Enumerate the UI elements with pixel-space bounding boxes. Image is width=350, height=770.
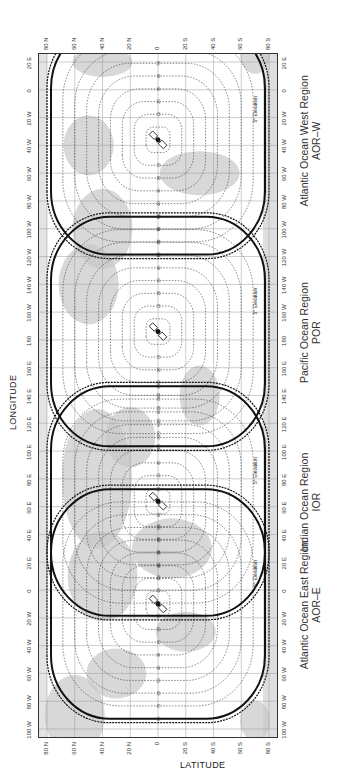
svg-text:30: 30 [156,86,161,91]
longitude-tick-label: 140 W [281,277,287,294]
svg-text:70: 70 [156,431,161,436]
svg-text:20: 20 [156,460,161,465]
latitude-tick-label: 20 S [182,38,188,50]
latitude-tick-label: 0 [154,47,160,50]
longitude-tick-label: 100 E [281,444,287,460]
longitude-tick-label: 40 E [26,529,32,541]
latitude-tick-label: 80 S [265,742,271,754]
longitude-tick-label: 80 W [281,195,287,209]
longitude-tick-label: 160 E [26,361,32,377]
longitude-tick-label: 80 W [26,195,32,209]
longitude-tick-label: 160 W [281,304,287,321]
latitude-tick-label: 60 S [237,742,243,754]
svg-text:10: 10 [156,303,161,308]
region-name: Atlantic Ocean West Region [298,75,310,206]
longitude-tick-label: 140 E [281,389,287,405]
longitude-tick-label: 20 E [26,57,32,69]
svg-text:60: 60 [156,690,161,695]
region-label: Pacific Ocean RegionPOR [298,282,322,383]
region-code: AOR–E [310,541,322,669]
latitude-tick-label: 20 S [182,742,188,754]
region-code: POR [310,282,322,383]
latitude-tick-label: 80 N [43,742,49,755]
svg-text:20: 20 [156,99,161,104]
svg-text:70: 70 [156,600,161,605]
svg-text:10: 10 [156,524,161,529]
latitude-tick-label: 0 [154,742,160,745]
longitude-tick-label: 120 E [26,416,32,432]
svg-text:30: 30 [156,278,161,283]
svg-text:50: 50 [156,60,161,65]
longitude-tick-label: 100 W [26,221,32,238]
svg-text:70: 70 [156,239,161,244]
svg-text:20: 20 [156,290,161,295]
latitude-tick-label: 60 N [71,742,77,755]
longitude-tick-label: 40 W [281,640,287,654]
longitude-tick-label: 60 W [26,667,32,681]
latitude-tick-label: 40 S [210,742,216,754]
svg-text:20: 20 [156,536,161,541]
latitude-tick-label: 80 S [265,38,271,50]
longitude-axis-title: LONGITUDE [8,375,18,430]
svg-text:5° Elevation: 5° Elevation [252,96,258,123]
longitude-tick-label: 160 E [281,361,287,377]
svg-text:80: 80 [156,486,161,491]
longitude-tick-label: 80 W [281,695,287,709]
svg-text:10: 10 [156,626,161,631]
longitude-tick-label: 80 E [26,474,32,486]
longitude-tick-label: 100 W [281,721,287,738]
longitude-tick-label: 40 W [26,640,32,654]
region-name: Indian Ocean Region [298,453,310,552]
longitude-tick-label: 100 W [26,721,32,738]
svg-text:50: 50 [156,575,161,580]
svg-text:60: 60 [156,587,161,592]
svg-text:40: 40 [156,73,161,78]
longitude-tick-label: 160 W [26,304,32,321]
longitude-tick-label: 180 [26,336,32,346]
svg-text:40: 40 [156,201,161,206]
coverage-map: 808070706060505040403030202010105° Eleva… [38,53,278,738]
svg-text:40: 40 [156,265,161,270]
svg-text:10: 10 [156,473,161,478]
svg-text:20: 20 [156,175,161,180]
svg-text:40: 40 [156,392,161,397]
svg-text:40: 40 [156,562,161,567]
longitude-tick-label: 20 E [281,57,287,69]
svg-text:60: 60 [156,226,161,231]
svg-text:60: 60 [156,418,161,423]
longitude-tick-label: 60 W [281,667,287,681]
latitude-axis-title-bottom: LATITUDE [180,760,225,770]
longitude-tick-label: 60 W [26,167,32,181]
svg-text:50: 50 [156,213,161,218]
coverage-map-graphic: 808070706060505040403030202010105° Eleva… [39,54,277,737]
longitude-tick-label: 40 W [281,139,287,153]
region-code: AOR–W [310,75,322,206]
svg-text:5° Elevation: 5° Elevation [252,287,258,314]
svg-text:30: 30 [156,549,161,554]
svg-text:50: 50 [156,677,161,682]
longitude-tick-label: 140 E [26,389,32,405]
svg-text:40: 40 [156,665,161,670]
longitude-tick-label: 20 W [26,612,32,626]
region-name: Atlantic Ocean East Region [298,541,310,669]
longitude-tick-label: 80 E [281,474,287,486]
latitude-tick-label: 20 N [126,37,132,50]
svg-text:60: 60 [156,512,161,517]
svg-text:80: 80 [156,443,161,448]
longitude-tick-label: 0 [26,589,32,592]
latitude-tick-label: 80 N [43,37,49,50]
longitude-tick-label: 0 [281,589,287,592]
longitude-tick-label: 40 E [281,529,287,541]
longitude-tick-label: 100 W [281,221,287,238]
longitude-tick-label: 60 E [281,502,287,514]
longitude-tick-label: 20 W [26,112,32,126]
latitude-tick-label: 60 N [71,37,77,50]
svg-text:30: 30 [156,188,161,193]
region-label: Atlantic Ocean West RegionAOR–W [298,75,322,206]
svg-text:20: 20 [156,639,161,644]
region-code: IOR [310,453,322,552]
svg-text:10: 10 [156,354,161,359]
longitude-tick-label: 140 W [26,277,32,294]
svg-text:80: 80 [156,613,161,618]
longitude-tick-label: 40 W [26,139,32,153]
